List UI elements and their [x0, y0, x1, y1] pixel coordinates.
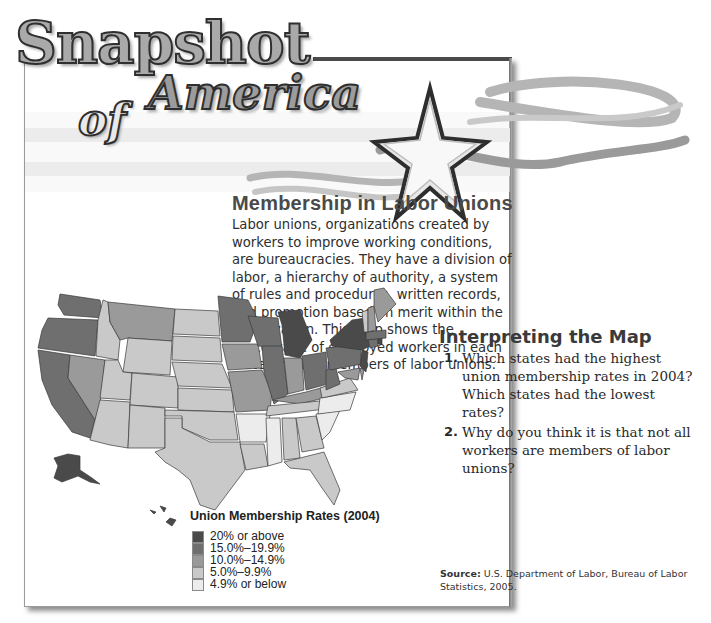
- state-md: [338, 368, 360, 380]
- question-item: 1. Which states had the highest union me…: [444, 349, 699, 421]
- question-text: Why do you think it is that not all work…: [462, 424, 691, 476]
- state-mi: [278, 310, 312, 358]
- state-ms: [266, 418, 282, 466]
- state-wy: [123, 338, 172, 375]
- source-note: Source: U.S. Department of Labor, Bureau…: [440, 567, 700, 593]
- state-me: [374, 288, 396, 322]
- state-co: [130, 373, 178, 408]
- legend-swatch: [192, 543, 204, 555]
- state-ia: [222, 344, 262, 370]
- state-oh: [302, 352, 328, 390]
- state-de: [360, 368, 364, 380]
- question-text: Which states had the highest union membe…: [462, 350, 692, 420]
- interpreting-title: Interpreting the Map: [439, 326, 652, 347]
- state-ar: [236, 414, 270, 442]
- state-ak: [54, 454, 100, 484]
- union-membership-map: [0, 0, 711, 623]
- state-wa: [58, 294, 103, 318]
- legend-title: Union Membership Rates (2004): [190, 509, 380, 523]
- question-number: 1.: [444, 349, 458, 367]
- state-sd: [172, 336, 222, 362]
- legend-swatch: [192, 579, 204, 591]
- state-ks: [178, 388, 234, 412]
- question-item: 2. Why do you think it is that not all w…: [444, 423, 699, 477]
- legend-swatch: [192, 555, 204, 567]
- state-nd: [173, 309, 220, 336]
- state-wi: [248, 316, 282, 348]
- question-list: 1. Which states had the highest union me…: [444, 349, 699, 479]
- state-hi: [150, 506, 176, 526]
- question-number: 2.: [444, 423, 458, 441]
- legend-swatch: [192, 567, 204, 579]
- legend-swatch: [192, 531, 204, 543]
- legend-label: 4.9% or below: [210, 577, 286, 591]
- state-ne: [172, 362, 232, 388]
- source-label: Source:: [440, 568, 481, 579]
- state-fl: [284, 452, 340, 505]
- state-nm: [128, 405, 165, 448]
- state-or: [38, 318, 98, 356]
- state-mt: [108, 302, 175, 341]
